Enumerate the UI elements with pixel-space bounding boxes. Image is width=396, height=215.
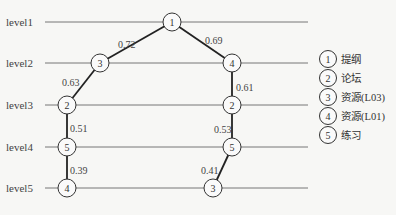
level-label: level3 <box>6 99 33 111</box>
legend-number: 3 <box>326 92 331 103</box>
level-row: level5 <box>6 182 308 194</box>
edge-line <box>100 22 172 63</box>
node-label: 5 <box>65 142 70 153</box>
legend-text: 资源(L01) <box>341 110 385 123</box>
edge-weight: 0.41 <box>201 165 219 176</box>
level-row: level2 <box>6 57 308 69</box>
level-row: level3 <box>6 99 308 111</box>
graph-node: 2 <box>223 96 241 114</box>
edge-line <box>172 22 232 63</box>
edge-weight: 0.63 <box>62 77 80 88</box>
legend-number: 2 <box>326 73 331 84</box>
legend-text: 资源(L03) <box>341 91 385 104</box>
node-label: 4 <box>230 58 235 69</box>
level-label: level4 <box>6 141 33 153</box>
node-label: 3 <box>211 183 216 194</box>
node-label: 1 <box>170 17 175 28</box>
legend-number: 5 <box>326 130 331 141</box>
legend-item: 4资源(L01) <box>320 108 386 125</box>
edge-weight: 0.51 <box>70 123 88 134</box>
legend-item: 5练习 <box>320 127 362 144</box>
legend-text: 提纲 <box>341 53 361 65</box>
graph-node: 3 <box>204 179 222 197</box>
node-label: 2 <box>65 100 70 111</box>
legend-text: 练习 <box>341 129 361 141</box>
level-row: level1 <box>6 16 308 28</box>
level-row: level4 <box>6 141 308 153</box>
edge-weight: 0.69 <box>205 35 223 46</box>
legend-text: 论坛 <box>341 72 362 84</box>
edge-weight: 0.72 <box>118 39 136 50</box>
edge-weight: 0.61 <box>236 82 254 93</box>
node-label: 3 <box>98 58 103 69</box>
graph-node: 4 <box>223 54 241 72</box>
node-label: 4 <box>65 183 70 194</box>
legend-number: 1 <box>326 54 331 65</box>
level-label: level5 <box>6 182 33 194</box>
graph-node: 2 <box>58 96 76 114</box>
edge-weight: 0.53 <box>214 124 232 135</box>
edge-weight: 0.39 <box>70 165 88 176</box>
graph-node: 3 <box>91 54 109 72</box>
graph-node: 5 <box>223 138 241 156</box>
level-label: level1 <box>6 16 33 28</box>
legend-number: 4 <box>326 111 331 122</box>
graph-node: 5 <box>58 138 76 156</box>
legend-item: 2论坛 <box>320 70 363 87</box>
legend-item: 3资源(L03) <box>320 89 386 106</box>
graph-node: 1 <box>163 13 181 31</box>
node-label: 5 <box>230 142 235 153</box>
graph-node: 4 <box>58 179 76 197</box>
node-label: 2 <box>230 100 235 111</box>
level-graph-diagram: level1level2level3level4level50.720.690.… <box>0 0 396 215</box>
level-label: level2 <box>6 57 33 69</box>
legend-item: 1提纲 <box>320 51 362 68</box>
